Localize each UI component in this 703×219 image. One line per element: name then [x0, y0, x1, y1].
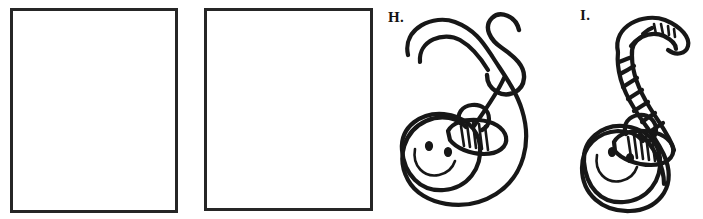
- smiling-face-h: [415, 142, 455, 176]
- answer-box-a[interactable]: [10, 8, 178, 213]
- s-worm-body-h: [402, 20, 526, 205]
- eye-left-icon: [426, 142, 433, 150]
- eye-right-icon: [445, 148, 452, 156]
- panel-i: I.: [568, 0, 703, 219]
- panel-h: H.: [382, 0, 562, 219]
- panel-h-artwork: [382, 0, 562, 219]
- worksheet-sheet: H.: [0, 0, 703, 219]
- striped-hat-h: [448, 105, 506, 154]
- panel-i-artwork: [568, 0, 703, 219]
- answer-box-b[interactable]: [204, 8, 373, 211]
